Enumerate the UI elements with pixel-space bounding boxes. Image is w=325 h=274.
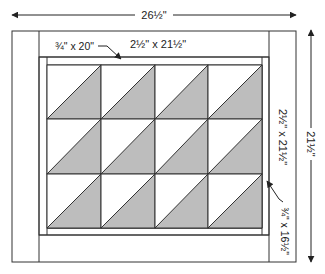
block <box>101 65 155 119</box>
block <box>47 174 101 228</box>
inner-sashing-side-label: ¾" x 16½" <box>279 207 291 255</box>
block <box>47 65 101 119</box>
block <box>208 119 262 174</box>
block <box>47 119 101 174</box>
block <box>208 174 262 228</box>
quilt-diagram: 26½" 21½" ¾" x 20" 2½" x 21½" <box>0 0 325 274</box>
width-dimension: 26½" <box>12 9 296 21</box>
outer-border-side-label: 2½" x 21½" <box>277 109 289 165</box>
block-grid <box>47 65 262 228</box>
block <box>155 174 208 228</box>
width-label: 26½" <box>141 9 166 21</box>
block <box>101 174 155 228</box>
block <box>155 65 208 119</box>
height-label: 21½" <box>305 131 317 156</box>
inner-sashing-top-label: ¾" x 20" <box>55 40 94 52</box>
block <box>208 65 262 119</box>
block <box>155 119 208 174</box>
block <box>101 119 155 174</box>
outer-border-top-label: 2½" x 21½" <box>130 38 186 50</box>
height-dimension: 21½" <box>305 30 317 262</box>
